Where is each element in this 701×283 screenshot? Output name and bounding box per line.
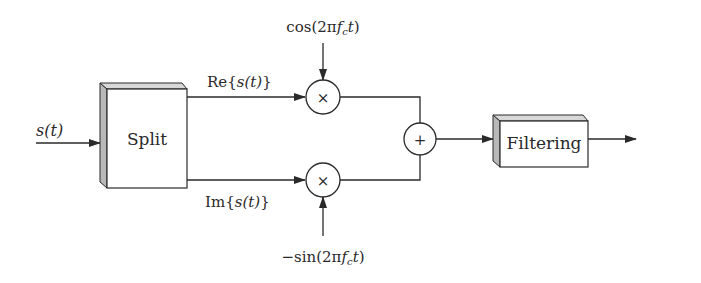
real-branch-label: Re{s(t)} — [207, 73, 272, 91]
input-signal-label: s(t) — [36, 121, 63, 140]
sin-carrier-label: −sin(2πfct) — [281, 248, 364, 267]
plus-icon: + — [414, 131, 427, 149]
filtering-label: Filtering — [507, 133, 582, 153]
multiply-icon: × — [317, 172, 330, 190]
multiply-icon: × — [317, 89, 330, 107]
upper-to-sum-line — [340, 97, 420, 123]
imag-branch-label: Im{s(t)} — [205, 193, 270, 211]
diagram-canvas: s(t) Split Re{s(t)} Im{s(t)} × cos(2πfct… — [0, 0, 701, 283]
cos-carrier-label: cos(2πfct) — [286, 18, 359, 37]
lower-to-sum-line — [340, 155, 420, 180]
split-label: Split — [127, 129, 167, 149]
